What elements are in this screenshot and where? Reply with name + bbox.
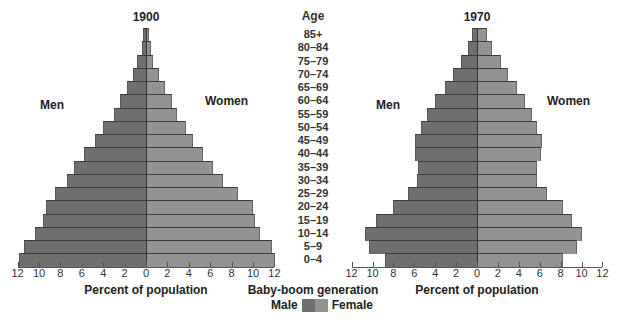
legend-male-label: Male (271, 298, 298, 312)
axis-tick (498, 262, 499, 267)
axis-tick (435, 262, 436, 267)
axis-tick (602, 262, 603, 267)
axis-tick (477, 262, 478, 267)
axis-tick-label: 10 (366, 267, 378, 279)
axis-tick (456, 262, 457, 267)
axis-tick (540, 262, 541, 267)
legend: Male Female (271, 298, 373, 312)
axis-tick-label: 12 (596, 267, 608, 279)
legend-title: Baby-boom generation (248, 283, 379, 297)
legend-female-label: Female (332, 298, 373, 312)
legend-male-swatch (302, 299, 315, 312)
axis-tick-label: 8 (390, 267, 396, 279)
axis-tick (519, 262, 520, 267)
axis-tick-label: 6 (411, 267, 417, 279)
chart-1970-x-axis: 12108642024681012 (0, 0, 621, 319)
axis-tick-label: 2 (495, 267, 501, 279)
legend-female-swatch (315, 299, 328, 312)
axis-tick (352, 262, 353, 267)
axis-tick (561, 262, 562, 267)
axis-tick-label: 12 (345, 267, 357, 279)
axis-tick-label: 8 (558, 267, 564, 279)
chart-1970-x-axis-title: Percent of population (415, 283, 538, 297)
axis-tick-label: 2 (453, 267, 459, 279)
axis-tick-label: 6 (537, 267, 543, 279)
axis-tick (373, 262, 374, 267)
axis-tick (414, 262, 415, 267)
axis-tick (393, 262, 394, 267)
axis-tick-label: 4 (516, 267, 522, 279)
axis-tick-label: 10 (575, 267, 587, 279)
axis-tick (582, 262, 583, 267)
axis-tick-label: 4 (432, 267, 438, 279)
axis-tick-label: 0 (474, 267, 480, 279)
legend-swatch (302, 299, 328, 312)
